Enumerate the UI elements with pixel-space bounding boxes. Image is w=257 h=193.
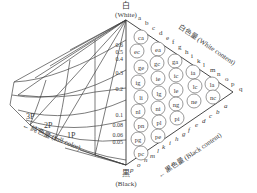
svg-text:e: e [166,34,169,42]
svg-text:ea: ea [155,46,161,53]
svg-text:b: b [216,108,220,116]
white-english: (White) [115,11,137,19]
svg-text:m: m [150,152,155,160]
svg-text:ec: ec [134,48,140,55]
svg-text:k: k [197,57,201,65]
svg-text:1P: 1P [67,131,76,140]
svg-text:la: la [210,81,215,88]
svg-text:ca: ca [138,34,144,41]
svg-text:0.6: 0.6 [116,42,124,48]
svg-text:l: l [157,147,159,155]
svg-text:0.5: 0.5 [116,49,124,55]
svg-text:pg: pg [135,136,142,143]
svg-text:ig: ig [135,79,141,86]
svg-text:e: e [195,121,198,129]
svg-text:ic: ic [174,72,179,79]
svg-text:0.4: 0.4 [116,56,124,62]
svg-text:lc: lc [193,83,198,90]
svg-text:f: f [188,126,191,134]
svg-text:g: g [178,43,182,51]
svg-text:li: li [139,94,143,101]
svg-text:lg: lg [156,90,162,97]
svg-text:n: n [217,70,221,78]
scale-ticks: 0.6 0.5 0.4 0.3 0.2 0.1 0.08 0.06 0.05 [113,42,124,145]
svg-text:q: q [239,85,243,93]
svg-text:p: p [231,80,235,88]
svg-text:c: c [209,112,213,120]
svg-text:o: o [225,75,229,83]
svg-text:gc: gc [154,60,160,67]
svg-text:i: i [191,52,193,60]
svg-text:ia: ia [191,69,196,76]
svg-text:n: n [144,156,148,164]
svg-text:h: h [185,48,189,56]
svg-text:0.3: 0.3 [116,70,124,76]
svg-text:h: h [175,135,179,143]
svg-text:0.1: 0.1 [116,112,124,118]
svg-text:ne: ne [191,98,197,105]
svg-text:0.05: 0.05 [113,139,124,145]
svg-text:i: i [169,139,171,147]
svg-text:d: d [202,117,206,125]
white-kanji: 白 [122,0,130,10]
svg-text:2P: 2P [44,121,53,130]
svg-text:pl: pl [156,119,161,126]
svg-text:pe: pe [155,133,161,140]
svg-text:ge: ge [138,64,144,71]
svg-text:ie: ie [156,75,161,82]
svg-text:ga: ga [172,58,178,65]
svg-text:a: a [224,102,228,110]
svg-text:0.2: 0.2 [116,86,124,92]
svg-text:nc: nc [210,94,216,101]
svg-text:g: g [182,130,186,138]
svg-text:a: a [138,14,142,22]
svg-text:3P: 3P [26,112,35,121]
svg-text:f: f [172,38,175,46]
black-kanji: 黒 [122,169,130,178]
svg-text:pi: pi [174,115,179,122]
svg-text:0.06: 0.06 [113,132,124,138]
svg-text:0.08: 0.08 [113,122,124,128]
svg-text:k: k [162,143,166,151]
svg-text:d: d [159,29,163,37]
svg-text:b: b [145,19,149,27]
svg-text:m: m [210,66,216,74]
svg-text:o: o [137,161,141,169]
black-english: (Black) [116,180,138,188]
svg-text:nl: nl [135,108,140,115]
svg-text:l: l [203,61,205,69]
svg-text:le: le [174,87,179,94]
svg-text:ni: ni [155,105,160,112]
svg-text:p: p [129,166,134,174]
svg-text:ng: ng [173,101,180,108]
color-solid-diagram: ca ecea gegcga igieicia lilglelcla nlnin… [0,0,257,193]
svg-text:c: c [152,24,155,32]
svg-text:pn: pn [138,122,145,129]
